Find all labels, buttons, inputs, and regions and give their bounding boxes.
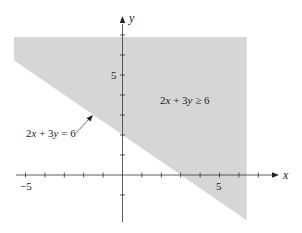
x-axis-label: x	[282, 168, 289, 182]
y-tick-label-5: 5	[111, 69, 117, 81]
y-axis-arrow-icon	[120, 16, 125, 23]
x-tick-label-neg5: −5	[20, 180, 32, 192]
x-axis: x −5 5	[16, 168, 289, 192]
boundary-line-label: 2x + 3y = 6	[26, 127, 76, 139]
inequality-graph: x −5 5 y 5 2x + 3y = 6 2x + 3y ≥ 6	[0, 0, 302, 233]
annotation-arrow-line	[76, 118, 90, 133]
x-axis-arrow-icon	[272, 172, 279, 177]
boundary-line-annotation: 2x + 3y = 6	[26, 115, 93, 139]
y-axis-label: y	[128, 11, 135, 25]
x-tick-label-5: 5	[216, 180, 222, 192]
region-label: 2x + 3y ≥ 6	[160, 94, 210, 106]
